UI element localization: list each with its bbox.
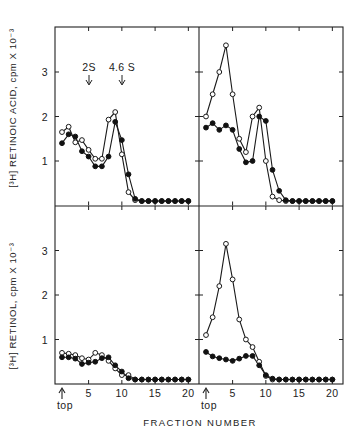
filled-circle-marker <box>126 376 131 381</box>
down-arrow-icon <box>86 75 92 85</box>
filled-circle-marker <box>204 125 209 130</box>
filled-circle-marker <box>224 357 229 362</box>
x-tick-label: 5 <box>229 387 235 399</box>
x-tick-label: 10 <box>260 387 273 399</box>
open-circle-marker <box>113 110 118 115</box>
filled-circle-marker <box>317 377 322 382</box>
filled-circle-marker <box>66 355 71 360</box>
open-circle-marker <box>230 277 235 282</box>
filled-circle-marker <box>100 164 105 169</box>
open-circle-marker <box>250 345 255 350</box>
open-circle-marker <box>93 350 98 355</box>
filled-circle-marker <box>159 199 164 204</box>
annotation-2s-label: 2S <box>82 61 95 73</box>
open-circle-marker <box>210 315 215 320</box>
filled-circle-marker <box>297 199 302 204</box>
open-circle-marker <box>217 284 222 289</box>
open-circle-marker <box>119 152 124 157</box>
figure: 1231235101520top5101520top [³H] RETINOIC… <box>0 0 362 438</box>
open-circle-marker <box>210 92 215 97</box>
filled-circle-marker <box>323 377 328 382</box>
y-tick-label: 2 <box>42 289 48 301</box>
filled-circle-marker <box>139 377 144 382</box>
open-circle-marker <box>277 198 282 203</box>
open-circle-marker <box>230 92 235 97</box>
filled-circle-marker <box>179 377 184 382</box>
open-circle-marker <box>237 317 242 322</box>
filled-circle-marker <box>230 127 235 132</box>
filled-circle-marker <box>93 164 98 169</box>
filled-circle-marker <box>217 127 222 132</box>
y-tick-label: 1 <box>42 334 48 346</box>
open-circle-marker <box>204 333 209 338</box>
series-line-filled-circles <box>62 122 188 201</box>
filled-circle-marker <box>283 377 288 382</box>
filled-circle-marker <box>323 199 328 204</box>
filled-circle-marker <box>113 363 118 368</box>
filled-circle-marker <box>153 377 158 382</box>
x-tick-label: 20 <box>326 387 339 399</box>
filled-circle-marker <box>277 188 282 193</box>
down-arrow-icon <box>119 75 125 85</box>
open-circle-marker <box>270 194 275 199</box>
series-line-filled-circles <box>206 117 332 202</box>
filled-circle-marker <box>250 159 255 164</box>
open-circle-marker <box>126 190 131 195</box>
open-circle-marker <box>106 117 111 122</box>
open-circle-marker <box>257 105 262 110</box>
filled-circle-marker <box>153 199 158 204</box>
filled-circle-marker <box>133 196 138 201</box>
filled-circle-marker <box>277 377 282 382</box>
filled-circle-marker <box>119 369 124 374</box>
filled-circle-marker <box>237 356 242 361</box>
open-circle-marker <box>204 114 209 119</box>
panel-top-right <box>204 43 335 204</box>
filled-circle-marker <box>283 198 288 203</box>
filled-circle-marker <box>73 356 78 361</box>
filled-circle-marker <box>133 377 138 382</box>
filled-circle-marker <box>113 119 118 124</box>
filled-circle-marker <box>126 172 131 177</box>
open-circle-marker <box>224 241 229 246</box>
open-circle-marker <box>244 337 249 342</box>
filled-circle-marker <box>106 355 111 360</box>
open-circle-marker <box>217 70 222 75</box>
filled-circle-marker <box>204 350 209 355</box>
filled-circle-marker <box>263 119 268 124</box>
x-tick-label: 10 <box>116 387 129 399</box>
panel-bottom-right <box>204 241 335 382</box>
annotation-4-6s: 4.6 S <box>109 61 135 85</box>
filled-circle-marker <box>230 358 235 363</box>
filled-circle-marker <box>257 363 262 368</box>
open-circle-marker <box>73 140 78 145</box>
y-tick-label: 1 <box>42 155 48 167</box>
filled-circle-marker <box>330 199 335 204</box>
filled-circle-marker <box>166 377 171 382</box>
filled-circle-marker <box>186 199 191 204</box>
panel-top-left <box>60 110 191 204</box>
open-circle-marker <box>224 43 229 48</box>
y-tick-label: 3 <box>42 66 48 78</box>
data-series <box>60 43 335 382</box>
filled-circle-marker <box>210 354 215 359</box>
filled-circle-marker <box>270 376 275 381</box>
y-axis-label-retinoic-acid: [³H] RETINOIC ACID, cpm X 10⁻³ <box>7 28 18 188</box>
filled-circle-marker <box>290 377 295 382</box>
open-circle-marker <box>93 156 98 161</box>
filled-circle-marker <box>146 199 151 204</box>
x-tick-label: 15 <box>149 387 162 399</box>
open-circle-marker <box>66 124 71 129</box>
filled-circle-marker <box>119 138 124 143</box>
panel-bottom-left <box>60 350 191 381</box>
open-circle-marker <box>244 150 249 155</box>
open-circle-marker <box>80 356 85 361</box>
filled-circle-marker <box>186 377 191 382</box>
open-circle-marker <box>86 147 91 152</box>
x-tick-label: 20 <box>182 387 195 399</box>
open-circle-marker <box>250 114 255 119</box>
filled-circle-marker <box>217 356 222 361</box>
filled-circle-marker <box>66 132 71 137</box>
filled-circle-marker <box>317 199 322 204</box>
open-circle-marker <box>100 156 105 161</box>
filled-circle-marker <box>310 377 315 382</box>
